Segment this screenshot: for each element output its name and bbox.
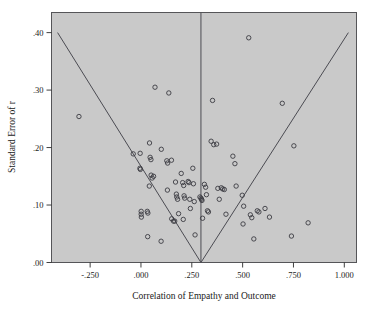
x-tick-label: .500 <box>235 270 250 280</box>
x-tick-label: 1.000 <box>335 270 354 280</box>
plot-area <box>52 13 357 263</box>
funnel-plot-svg: Standard Error of r Correlation of Empat… <box>0 0 377 315</box>
y-tick-label: .30 <box>33 85 44 95</box>
x-axis-title: Correlation of Empathy and Outcome <box>132 291 276 301</box>
y-axis-title: Standard Error of r <box>7 100 17 173</box>
x-tick-label: .750 <box>286 270 301 280</box>
y-tick-label: .20 <box>33 143 44 153</box>
y-tick-label: .10 <box>33 200 44 210</box>
x-tick-label: -.250 <box>81 270 99 280</box>
y-axis-ticks: .00.10.20.30.40 <box>33 28 52 268</box>
y-tick-label: .40 <box>33 28 44 38</box>
x-tick-label: .000 <box>134 270 149 280</box>
funnel-plot-figure: Standard Error of r Correlation of Empat… <box>0 0 377 315</box>
y-tick-label: .00 <box>33 258 44 268</box>
x-axis-ticks: -.250.000.250.500.7501.000 <box>81 263 354 280</box>
x-tick-label: .250 <box>184 270 199 280</box>
